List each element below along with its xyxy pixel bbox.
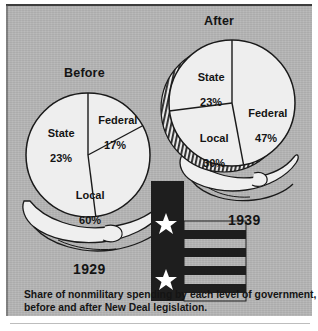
after-title: After	[204, 14, 234, 28]
after-local-value: 30%	[203, 157, 225, 169]
before-federal-value: 17%	[104, 139, 126, 151]
american-flag	[151, 181, 246, 301]
after-state-name: State	[198, 71, 225, 83]
figure-caption: Share of nonmilitary spending by each le…	[24, 288, 300, 314]
flag-stripe-2	[184, 248, 246, 257]
before-title: Before	[64, 66, 105, 80]
before-year: 1929	[73, 261, 106, 277]
after-year: 1939	[228, 212, 261, 228]
new-deal-spending-figure: Before After Federal 17% State 23% Local…	[0, 0, 318, 331]
after-state-label: State 23%	[184, 58, 226, 121]
before-local-label: Local 60%	[62, 176, 106, 239]
caption-line-2: before and after New Deal legislation.	[24, 301, 300, 314]
after-federal-label: Federal 47%	[236, 94, 284, 157]
after-local-name: Local	[200, 132, 229, 144]
before-state-value: 23%	[50, 152, 72, 164]
before-state-name: State	[48, 127, 75, 139]
after-federal-value: 47%	[255, 132, 277, 144]
before-local-name: Local	[76, 189, 105, 201]
after-local-label: Local 30%	[186, 119, 230, 182]
before-state-label: State 23%	[34, 114, 76, 177]
flag-stripe-1	[184, 230, 246, 239]
after-federal-name: Federal	[248, 107, 287, 119]
flag-stripe-3	[184, 266, 246, 275]
caption-line-1: Share of nonmilitary spending by each le…	[24, 288, 300, 301]
before-local-value: 60%	[79, 214, 101, 226]
bottom-rule	[10, 323, 310, 324]
before-federal-label: Federal 17%	[86, 101, 132, 164]
after-state-value: 23%	[200, 96, 222, 108]
before-federal-name: Federal	[98, 114, 137, 126]
